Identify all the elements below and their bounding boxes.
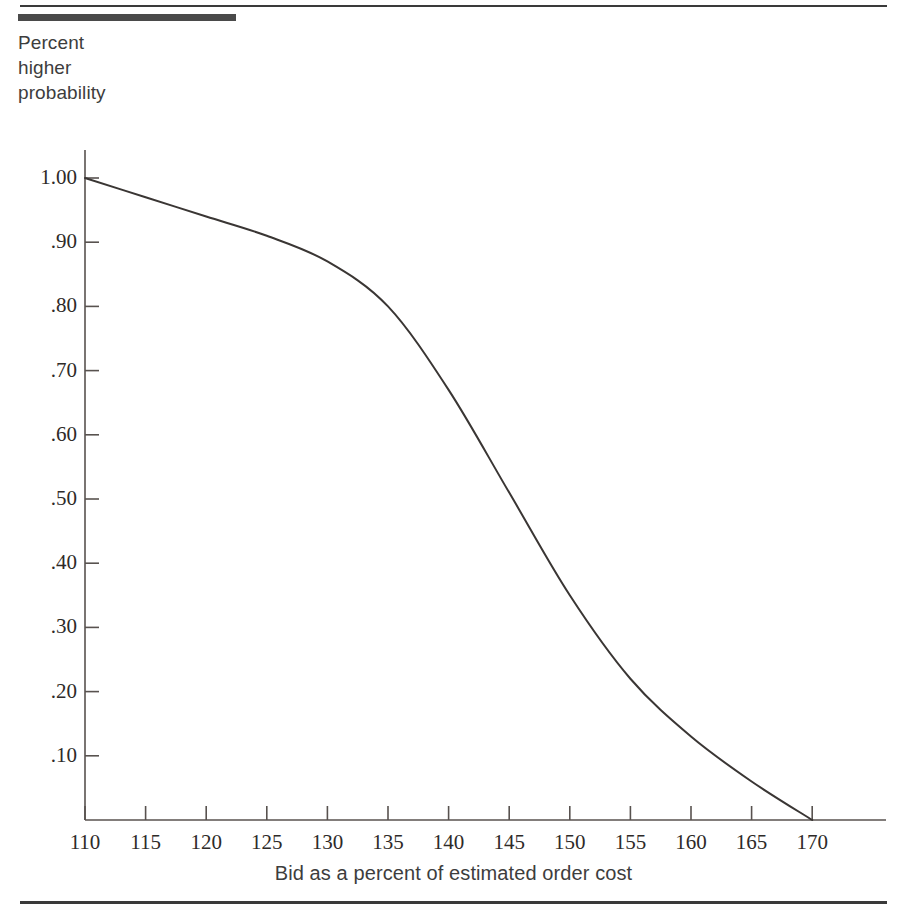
x-tick-label: 115 [116,832,176,853]
y-tick-label: .50 [7,488,77,509]
x-tick-label: 150 [540,832,600,853]
y-tick-label: .70 [7,360,77,381]
chart-page: { "figure": { "top_rule": "decorative-ru… [0,0,907,923]
x-tick-label: 140 [419,832,479,853]
y-tick-label: .30 [7,616,77,637]
x-tick-label: 165 [722,832,782,853]
y-tick-marks [85,178,99,756]
y-tick-label: .20 [7,681,77,702]
x-tick-label: 170 [782,832,842,853]
y-tick-label: .80 [7,295,77,316]
chart-svg [0,0,907,923]
x-axis-title: Bid as a percent of estimated order cost [0,862,907,885]
x-tick-label: 125 [237,832,297,853]
x-tick-label: 160 [661,832,721,853]
x-tick-label: 145 [479,832,539,853]
y-tick-label: .10 [7,745,77,766]
x-tick-label: 130 [297,832,357,853]
x-tick-label: 110 [55,832,115,853]
y-tick-label: .60 [7,424,77,445]
data-series-line [85,178,812,820]
y-tick-label: .40 [7,552,77,573]
axes-group [85,150,886,820]
x-tick-label: 135 [358,832,418,853]
x-tick-label: 155 [600,832,660,853]
plot-area: 1.00.90.80.70.60.50.40.30.20.10 11011512… [0,0,907,923]
y-tick-label: .90 [7,231,77,252]
x-tick-marks [85,806,812,820]
x-tick-label: 120 [176,832,236,853]
y-tick-label: 1.00 [7,167,77,188]
